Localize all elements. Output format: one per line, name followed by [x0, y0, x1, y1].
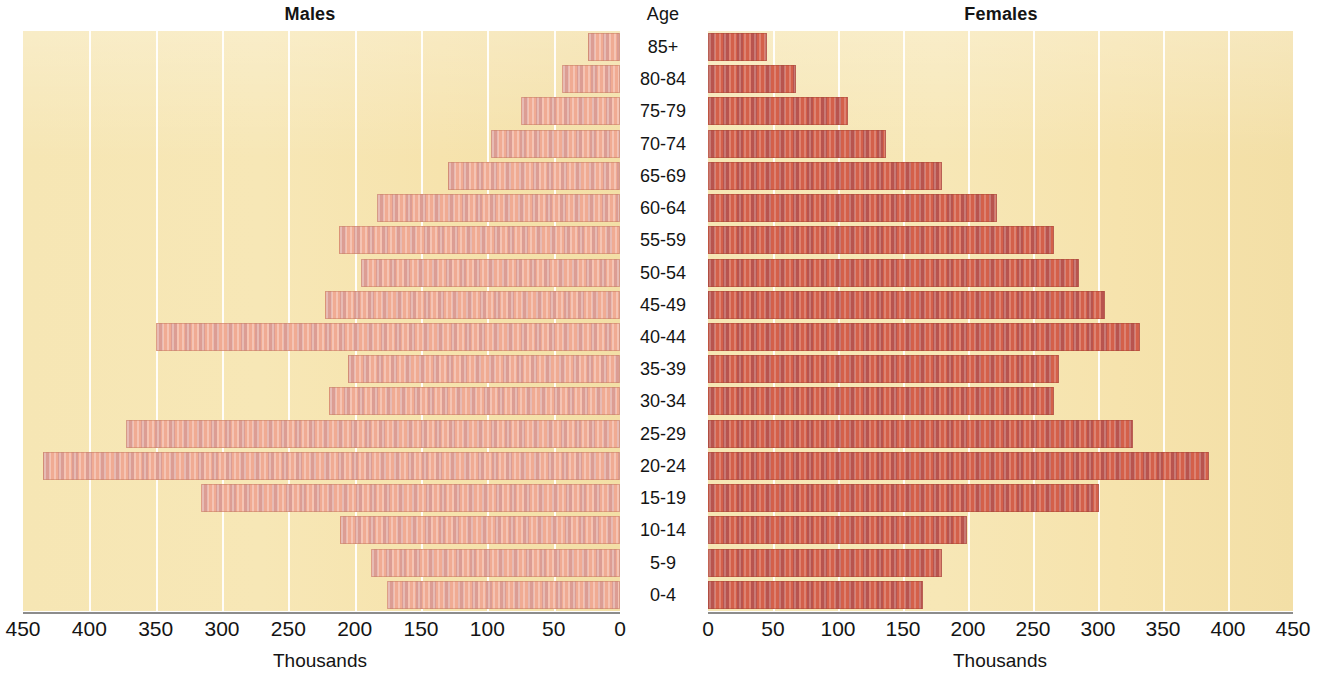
age-label-20-24: 20-24 [620, 450, 706, 482]
male-bar-15-19[interactable] [201, 484, 620, 512]
male-bar-row [23, 224, 620, 256]
tick-label-100: 100 [457, 617, 517, 641]
females-axis-caption: Thousands [830, 650, 1170, 672]
male-bar-85+[interactable] [588, 33, 620, 61]
age-label-35-39: 35-39 [620, 353, 706, 385]
female-bar-60-64[interactable] [708, 194, 997, 222]
male-bar-5-9[interactable] [371, 549, 620, 577]
female-bar-row [708, 418, 1293, 450]
female-bar-row [708, 31, 1293, 63]
tick-label-400: 400 [1198, 617, 1258, 641]
female-bar-20-24[interactable] [708, 452, 1209, 480]
male-bar-10-14[interactable] [340, 516, 620, 544]
female-bar-row [708, 353, 1293, 385]
male-bar-75-79[interactable] [521, 97, 621, 125]
tick-label-350: 350 [126, 617, 186, 641]
age-label-80-84: 80-84 [620, 63, 706, 95]
male-bar-35-39[interactable] [348, 355, 620, 383]
female-bar-row [708, 224, 1293, 256]
male-bar-row [23, 450, 620, 482]
male-bar-row [23, 192, 620, 224]
female-bar-row [708, 321, 1293, 353]
female-bar-45-49[interactable] [708, 291, 1105, 319]
age-label-30-34: 30-34 [620, 385, 706, 417]
female-bar-55-59[interactable] [708, 226, 1054, 254]
male-bar-55-59[interactable] [339, 226, 620, 254]
female-bar-row [708, 385, 1293, 417]
tick-label-200: 200 [938, 617, 998, 641]
female-bar-row [708, 482, 1293, 514]
age-label-25-29: 25-29 [620, 418, 706, 450]
age-label-40-44: 40-44 [620, 321, 706, 353]
age-label-75-79: 75-79 [620, 95, 706, 127]
female-bar-85+[interactable] [708, 33, 767, 61]
female-bar-row [708, 579, 1293, 611]
tick-label-0: 0 [678, 617, 738, 641]
male-bar-65-69[interactable] [448, 162, 620, 190]
tick-label-50: 50 [524, 617, 584, 641]
age-label-10-14: 10-14 [620, 514, 706, 546]
male-bar-row [23, 321, 620, 353]
tick-label-200: 200 [325, 617, 385, 641]
male-bar-80-84[interactable] [562, 65, 620, 93]
male-bar-row [23, 128, 620, 160]
female-bar-40-44[interactable] [708, 323, 1140, 351]
female-bar-row [708, 450, 1293, 482]
males-axis-caption: Thousands [150, 650, 490, 672]
female-bar-70-74[interactable] [708, 130, 886, 158]
male-bar-45-49[interactable] [325, 291, 620, 319]
male-bar-row [23, 63, 620, 95]
tick-label-400: 400 [59, 617, 119, 641]
male-bar-70-74[interactable] [491, 130, 620, 158]
males-axis-line [23, 612, 620, 614]
male-bar-60-64[interactable] [377, 194, 620, 222]
males-plot-area [23, 31, 620, 611]
male-bar-row [23, 31, 620, 63]
males-panel-title: Males [0, 4, 620, 25]
female-bar-0-4[interactable] [708, 581, 923, 609]
male-bar-50-54[interactable] [361, 259, 620, 287]
tick-label-300: 300 [192, 617, 252, 641]
tick-label-250: 250 [1003, 617, 1063, 641]
age-label-0-4: 0-4 [620, 579, 706, 611]
female-bar-25-29[interactable] [708, 420, 1133, 448]
male-bar-row [23, 160, 620, 192]
male-bar-30-34[interactable] [329, 387, 620, 415]
female-bar-15-19[interactable] [708, 484, 1099, 512]
age-label-85+: 85+ [620, 31, 706, 63]
male-bar-0-4[interactable] [387, 581, 620, 609]
female-bar-row [708, 95, 1293, 127]
male-bar-row [23, 257, 620, 289]
female-bar-row [708, 128, 1293, 160]
female-bar-10-14[interactable] [708, 516, 967, 544]
age-label-70-74: 70-74 [620, 128, 706, 160]
age-label-45-49: 45-49 [620, 289, 706, 321]
tick-label-450: 450 [1263, 617, 1323, 641]
females-axis-line [708, 612, 1293, 614]
female-bar-65-69[interactable] [708, 162, 942, 190]
female-bar-30-34[interactable] [708, 387, 1054, 415]
male-bar-row [23, 385, 620, 417]
female-bar-50-54[interactable] [708, 259, 1079, 287]
age-label-15-19: 15-19 [620, 482, 706, 514]
male-bar-20-24[interactable] [43, 452, 620, 480]
female-bar-35-39[interactable] [708, 355, 1059, 383]
male-bar-row [23, 289, 620, 321]
age-label-50-54: 50-54 [620, 257, 706, 289]
male-bar-row [23, 547, 620, 579]
male-bar-25-29[interactable] [126, 420, 620, 448]
females-plot-area [708, 31, 1293, 611]
male-bar-40-44[interactable] [156, 323, 620, 351]
female-bar-row [708, 63, 1293, 95]
male-bar-row [23, 353, 620, 385]
tick-label-50: 50 [743, 617, 803, 641]
tick-label-250: 250 [258, 617, 318, 641]
female-bar-row [708, 257, 1293, 289]
female-bar-5-9[interactable] [708, 549, 942, 577]
female-bar-80-84[interactable] [708, 65, 796, 93]
female-bar-75-79[interactable] [708, 97, 848, 125]
tick-label-450: 450 [0, 617, 53, 641]
age-column-title: Age [620, 4, 706, 25]
male-bar-row [23, 95, 620, 127]
female-bar-row [708, 514, 1293, 546]
